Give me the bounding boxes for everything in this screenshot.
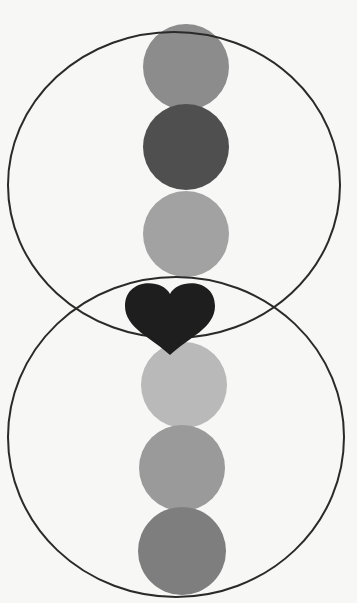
dot-3 (143, 191, 229, 277)
heart-icon (125, 283, 215, 355)
dot-6 (138, 507, 226, 595)
dot-4 (141, 342, 227, 428)
diagram-canvas (0, 0, 357, 603)
dot-2 (143, 104, 229, 190)
dot-5 (139, 425, 225, 511)
heart-layer (125, 283, 215, 355)
